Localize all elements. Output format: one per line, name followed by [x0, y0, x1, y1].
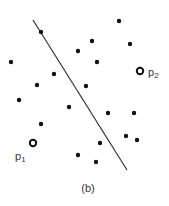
- data-point: [76, 49, 80, 53]
- data-point: [117, 19, 121, 23]
- data-point: [132, 111, 136, 115]
- data-points: [9, 19, 139, 164]
- data-point: [9, 60, 13, 64]
- data-point: [135, 138, 139, 142]
- data-point: [90, 39, 94, 43]
- separating-line: [33, 20, 127, 170]
- data-point: [39, 122, 43, 126]
- data-point: [128, 42, 132, 46]
- data-point: [52, 72, 56, 76]
- data-point: [35, 83, 39, 87]
- data-point: [67, 105, 71, 109]
- point-p2: [137, 68, 143, 74]
- data-point: [124, 134, 128, 138]
- data-point: [39, 30, 43, 34]
- data-point: [76, 153, 80, 157]
- data-point: [106, 111, 110, 115]
- data-point: [17, 98, 21, 102]
- label-p1: p1: [15, 150, 26, 164]
- figure-caption: (b): [81, 182, 94, 194]
- data-point: [98, 141, 102, 145]
- label-p2: p2: [148, 66, 159, 80]
- point-p1: [30, 140, 36, 146]
- data-point: [95, 60, 99, 64]
- data-point: [94, 160, 98, 164]
- special-points: p1p2: [15, 66, 159, 164]
- data-point: [84, 84, 88, 88]
- separating-line-diagram: p1p2 (b): [0, 0, 169, 206]
